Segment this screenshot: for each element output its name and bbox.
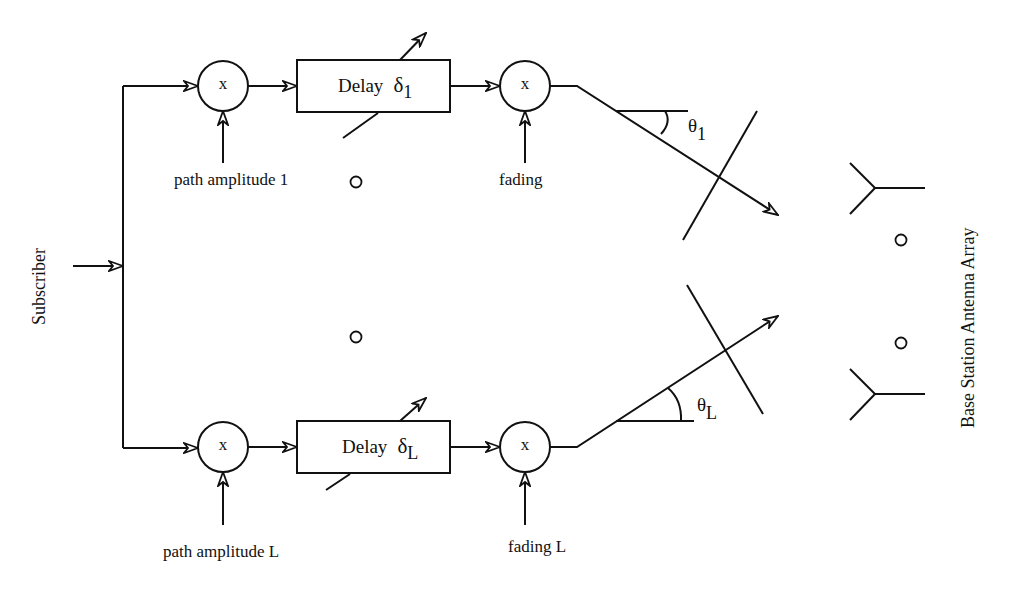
ellipsis-dot-path-amp — [351, 177, 362, 188]
base-station-antenna-array-label: Base Station Antenna Array — [958, 228, 979, 428]
ellipsis-dot-paths — [351, 332, 362, 343]
multiplier-symbol: x — [198, 74, 248, 94]
antenna-M-icon — [850, 369, 925, 420]
path-L-branch — [123, 285, 778, 525]
path-1-angle-label: θ1 — [688, 115, 706, 145]
multiplier-symbol: x — [500, 435, 550, 455]
path-1-fading-label: fading — [499, 170, 542, 190]
antenna-1-icon — [850, 163, 925, 214]
path-1-amplitude-label: path amplitude 1 — [174, 170, 288, 190]
path-L-delay-label: DelayδL — [342, 434, 418, 464]
multiplier-symbol: x — [500, 74, 550, 94]
path-L-fading-label: fading L — [508, 537, 566, 557]
multiplier-symbol: x — [198, 435, 248, 455]
ellipsis-dot-antenna-1 — [896, 235, 907, 246]
path-1-delay-label: Delayδ1 — [338, 73, 412, 103]
path-L-amplitude-label: path amplitude L — [163, 542, 279, 562]
ellipsis-dot-antenna-2 — [896, 338, 907, 349]
path-1-branch — [123, 33, 778, 240]
subscriber-label: Subscriber — [29, 248, 50, 325]
path-L-angle-label: θL — [697, 394, 717, 424]
